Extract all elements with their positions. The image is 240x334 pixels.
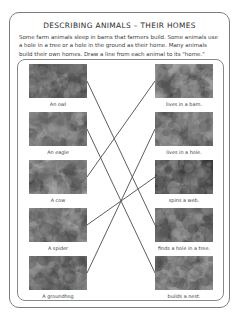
item-caption: A groundhog xyxy=(29,293,87,299)
page-title: DESCRIBING ANIMALS – THEIR HOMES xyxy=(10,21,229,30)
match-item-barn[interactable]: lives in a barn. xyxy=(155,64,213,107)
cow-photo xyxy=(29,160,87,194)
connector-line-spider-to-web xyxy=(87,177,155,225)
connector-line-eagle-to-nest xyxy=(87,129,155,273)
connector-line-cow-to-barn xyxy=(87,81,155,177)
item-caption: builds a nest. xyxy=(155,293,213,299)
owl-photo xyxy=(29,64,87,98)
nest-photo xyxy=(155,256,213,290)
item-caption: An owl xyxy=(29,101,87,107)
match-item-hole_ground[interactable]: lives in a hole. xyxy=(155,112,213,155)
groundhog-photo xyxy=(29,256,87,290)
match-item-spider[interactable]: A spider xyxy=(29,208,87,251)
spider-photo xyxy=(29,208,87,242)
match-item-nest[interactable]: builds a nest. xyxy=(155,256,213,299)
instructions-paragraph: Some farm animals sleep in barns that fa… xyxy=(19,33,222,58)
item-caption: lives in a hole. xyxy=(155,149,213,155)
item-caption: lives in a barn. xyxy=(155,101,213,107)
burrow-photo xyxy=(155,112,213,146)
item-caption: An eagle xyxy=(29,149,87,155)
tree-hole-photo xyxy=(155,208,213,242)
item-caption: A cow xyxy=(29,197,87,203)
item-caption: spins a web. xyxy=(155,197,213,203)
worksheet-page: DESCRIBING ANIMALS – THEIR HOMES Some fa… xyxy=(9,12,230,308)
matching-exercise-panel: An owlAn eagleA cowA spiderA groundhog l… xyxy=(17,59,224,301)
item-caption: A spider xyxy=(29,245,87,251)
item-caption: finds a hole in a tree. xyxy=(155,245,213,251)
match-item-owl[interactable]: An owl xyxy=(29,64,87,107)
match-item-eagle[interactable]: An eagle xyxy=(29,112,87,155)
match-item-tree_hole[interactable]: finds a hole in a tree. xyxy=(155,208,213,251)
match-item-cow[interactable]: A cow xyxy=(29,160,87,203)
web-photo xyxy=(155,160,213,194)
connector-line-groundhog-to-hole_ground xyxy=(87,129,155,273)
eagle-photo xyxy=(29,112,87,146)
match-item-groundhog[interactable]: A groundhog xyxy=(29,256,87,299)
barn-photo xyxy=(155,64,213,98)
connector-line-owl-to-tree_hole xyxy=(87,81,155,225)
match-item-web[interactable]: spins a web. xyxy=(155,160,213,203)
